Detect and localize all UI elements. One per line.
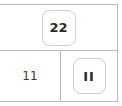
table-right-border: [117, 4, 118, 102]
table-cell-bottom-right: II: [61, 51, 117, 101]
table-bottom-border: [0, 101, 118, 102]
value-chip-22[interactable]: 22: [42, 10, 76, 46]
value-chip-ii[interactable]: II: [73, 58, 106, 94]
cell-value-11: 11: [22, 70, 37, 82]
table-cell-bottom-left: 11: [0, 51, 60, 101]
table-cell-merged-top: 22: [0, 5, 117, 50]
table-fragment: 22 11 II: [0, 0, 122, 106]
